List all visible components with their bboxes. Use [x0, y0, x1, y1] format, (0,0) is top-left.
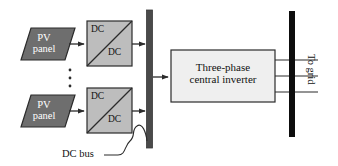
pv-panel-top-line1: PV: [17, 32, 71, 43]
inverter-label-line2: central inverter: [171, 74, 275, 86]
dc-bus-label: DC bus: [62, 148, 94, 159]
dc-bus-bar: [147, 10, 153, 148]
dcdc-converter-bottom-upper-label: DC: [91, 92, 104, 102]
pv-panel-bottom-line1: PV: [17, 99, 71, 110]
diagram-svg: [0, 0, 338, 166]
dcdc-converter-top-upper-label: DC: [91, 25, 104, 35]
dcdc-converter-top-lower-label: DC: [108, 48, 121, 58]
to-grid-label: To grid: [306, 54, 317, 84]
inverter-label-line1: Three-phase: [171, 62, 275, 74]
pv-panel-top-line2: panel: [17, 43, 71, 54]
dcdc-converter-bottom-lower-label: DC: [108, 115, 121, 125]
inverter-label: Three-phase central inverter: [171, 62, 275, 85]
grid-bus-bar: [289, 11, 295, 137]
pv-panel-bottom-line2: panel: [17, 110, 71, 121]
ellipsis-dot-1: [69, 69, 72, 72]
pv-panel-top-label: PV panel: [17, 32, 71, 54]
ellipsis-dot-3: [69, 85, 72, 88]
pv-panel-bottom-label: PV panel: [17, 99, 71, 121]
diagram-canvas: PV panel PV panel DC DC DC DC Three-phas…: [0, 0, 338, 166]
ellipsis-dot-2: [69, 77, 72, 80]
